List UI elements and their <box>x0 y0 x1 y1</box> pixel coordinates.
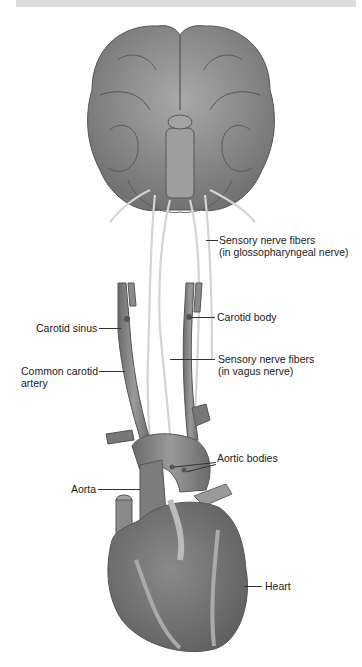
label-line-2: artery <box>21 377 98 389</box>
label-line-1: Sensory nerve fibers <box>218 353 314 365</box>
leader-carotid-sinus <box>99 328 121 329</box>
brain <box>88 26 275 213</box>
label-line-2: (in vagus nerve) <box>218 365 314 377</box>
label-carotid-body: Carotid body <box>217 311 277 323</box>
leader-aorta <box>98 489 140 490</box>
label-common-carotid-artery: Common carotid artery <box>21 365 98 389</box>
label-line-2: (in glossopharyngeal nerve) <box>219 246 349 258</box>
label-aortic-bodies: Aortic bodies <box>217 452 278 464</box>
leader-vagus <box>170 359 215 360</box>
leader-carotid-body <box>190 317 215 318</box>
label-sensory-glossopharyngeal: Sensory nerve fibers (in glossopharyngea… <box>219 234 349 258</box>
leader-common-carotid <box>99 371 125 372</box>
label-line-1: Sensory nerve fibers <box>219 234 349 246</box>
label-carotid-sinus: Carotid sinus <box>36 322 97 334</box>
label-heart: Heart <box>265 580 291 592</box>
leader-heart <box>244 586 262 587</box>
label-aorta: Aorta <box>71 483 96 495</box>
leader-glossopharyngeal <box>206 240 218 241</box>
label-line-1: Common carotid <box>21 365 98 377</box>
label-sensory-vagus: Sensory nerve fibers (in vagus nerve) <box>218 353 314 377</box>
